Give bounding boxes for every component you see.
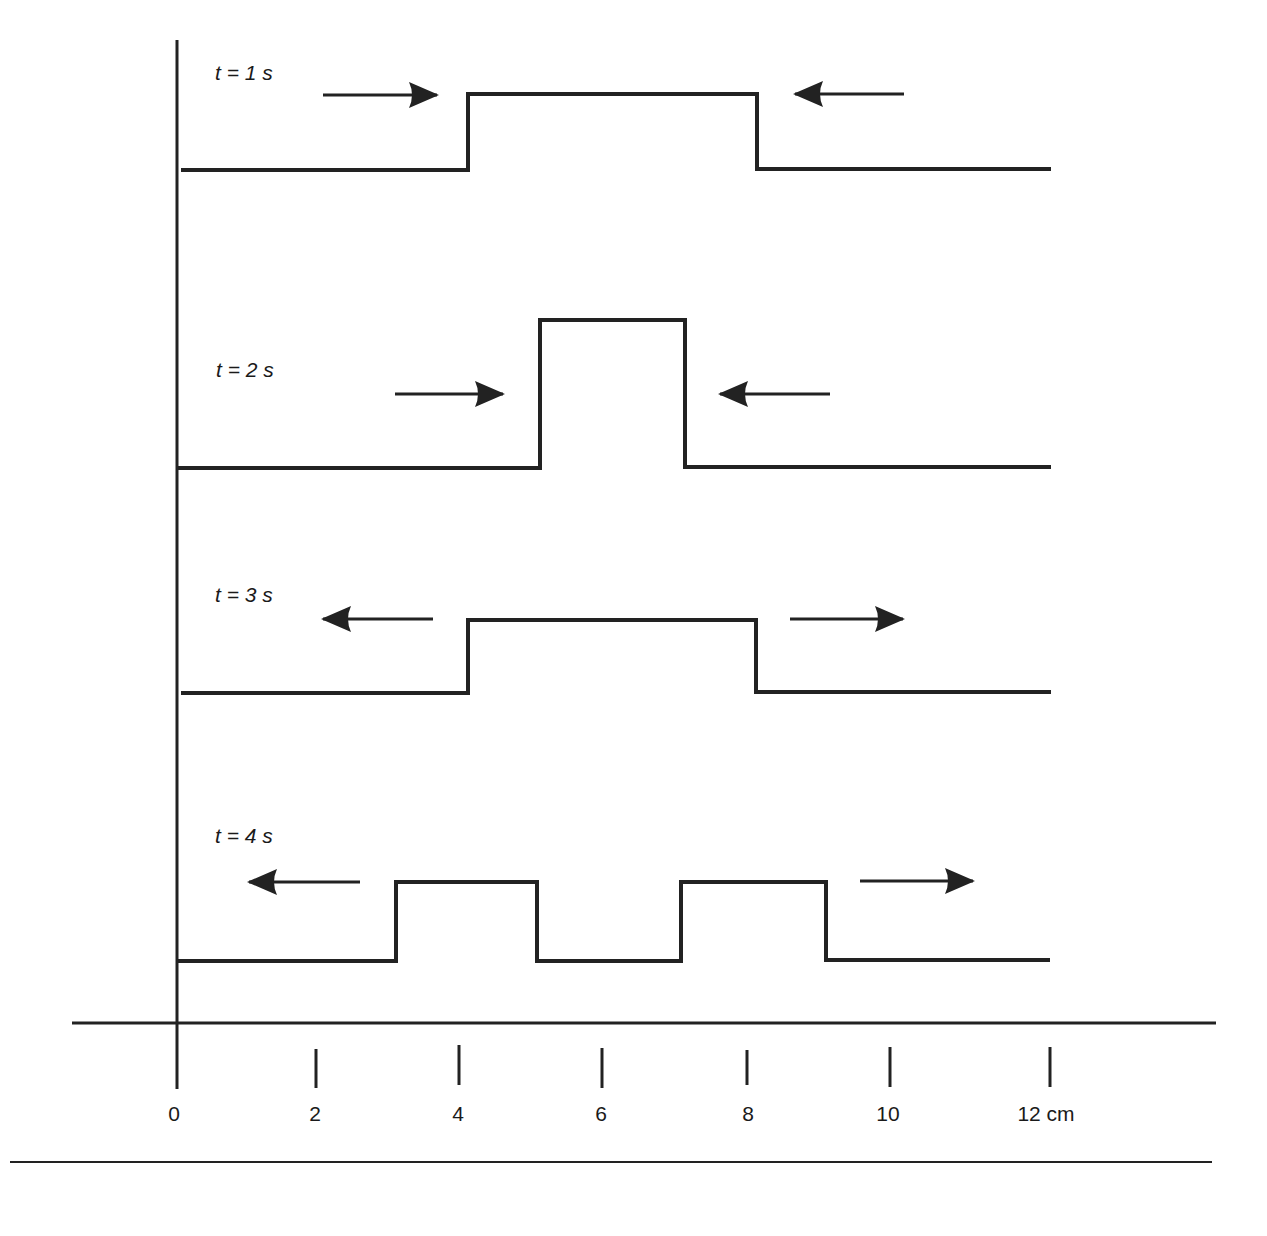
time-label: t = 3 s: [215, 583, 273, 606]
time-label: t = 4 s: [215, 824, 273, 847]
tick-label: 4: [452, 1102, 464, 1125]
snapshot-t2: t = 2 s: [177, 320, 1051, 468]
x-axis-tick-labels: 0 2 4 6 8 10 12 cm: [168, 1102, 1074, 1125]
pulse-waveform: [177, 320, 1051, 468]
pulse-waveform: [181, 620, 1051, 693]
tick-label: 8: [742, 1102, 754, 1125]
time-label: t = 2 s: [216, 358, 274, 381]
x-axis-ticks: [316, 1045, 1050, 1088]
time-label: t = 1 s: [215, 61, 273, 84]
wave-pulse-diagram: 0 2 4 6 8 10 12 cm t = 1 s t = 2 s t = 3…: [0, 0, 1267, 1236]
snapshot-t1: t = 1 s: [181, 61, 1051, 170]
tick-label: 6: [595, 1102, 607, 1125]
tick-label: 0: [168, 1102, 180, 1125]
snapshot-t3: t = 3 s: [181, 583, 1051, 693]
pulse-waveform: [177, 882, 1050, 961]
tick-label: 10: [876, 1102, 899, 1125]
snapshot-t4: t = 4 s: [177, 824, 1050, 961]
tick-label: 12 cm: [1017, 1102, 1074, 1125]
tick-label: 2: [309, 1102, 321, 1125]
pulse-waveform: [181, 94, 1051, 170]
